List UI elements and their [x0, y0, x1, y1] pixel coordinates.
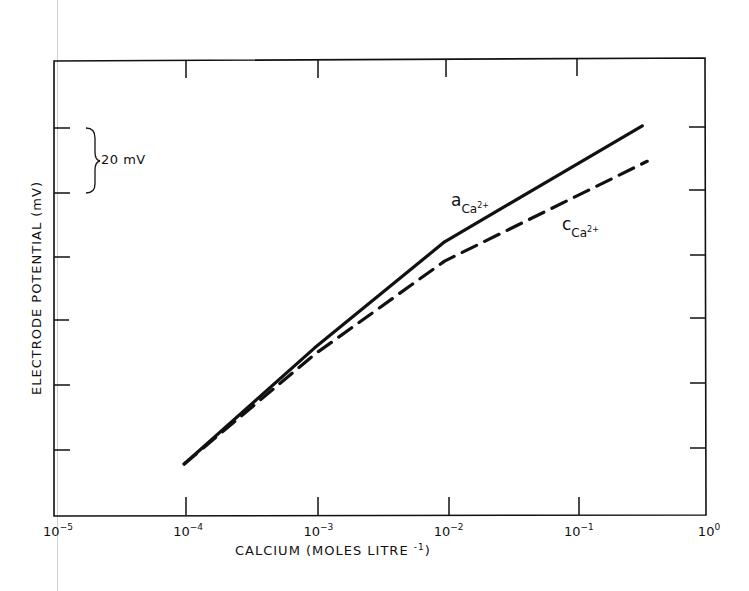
x-tick-label: 10−5 [43, 523, 73, 539]
x-tick-label: 10−4 [173, 523, 203, 539]
x-tick-label: 10−1 [564, 523, 594, 539]
series-label-sub: Ca2+ [461, 202, 489, 216]
series-label-main: a [451, 190, 461, 210]
x-tick-label: 10−2 [434, 523, 464, 539]
series-label-sub: Ca2+ [571, 226, 599, 240]
scale-bar-label: 20 mV [101, 152, 146, 167]
x-tick-label: 100 [698, 523, 720, 539]
series-label-main: c [562, 214, 571, 234]
right-ticks [689, 127, 706, 448]
x-axis-label: CALCIUM (MOLES LITRE -1) [235, 542, 431, 558]
bottom-ticks [186, 497, 579, 515]
scale-brace [86, 128, 100, 193]
series-line-concentration [184, 161, 647, 464]
chart-canvas [0, 0, 749, 591]
top-ticks [186, 58, 577, 78]
series-label-activity: aCa2+ [451, 190, 489, 213]
x-axis-label-text: CALCIUM (MOLES LITRE [235, 543, 409, 558]
left-ticks [54, 128, 70, 450]
series-layer [184, 126, 647, 464]
plot-frame [54, 58, 706, 516]
series-label-concentration: cCa2+ [562, 214, 599, 237]
series-line-activity [184, 126, 642, 464]
x-tick-label: 10−3 [303, 523, 333, 539]
x-axis-label-exponent: -1 [414, 542, 425, 552]
y-axis-label: ELECTRODE POTENTIAL (mV) [29, 181, 44, 395]
x-axis-label-close: ) [425, 543, 431, 558]
